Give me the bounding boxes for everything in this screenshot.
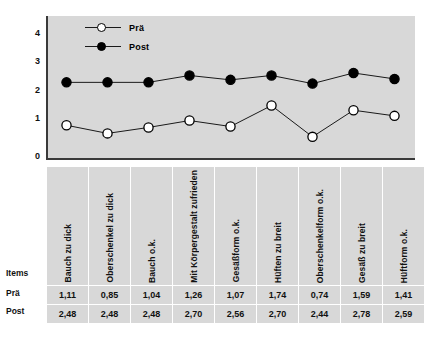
- values-table: Bauch zu dickOberschenkel zu dickBauch o…: [46, 166, 425, 324]
- table-header-cell: Oberschenkel zu dick: [89, 167, 131, 286]
- table-header-cell: Hüften zu breit: [257, 167, 299, 286]
- table-cell-pra: 1,41: [383, 285, 425, 304]
- table-cell-pra: 1,07: [215, 285, 257, 304]
- data-point-prä: [390, 111, 399, 120]
- table-cell-post: 2,48: [89, 304, 131, 323]
- table-header-cell: Gesäßform o.k.: [215, 167, 257, 286]
- table-row-post: 2,482,482,482,702,562,702,442,782,59: [47, 304, 425, 323]
- table-cell-pra: 1,26: [173, 285, 215, 304]
- table-header-label: Oberschenkelform o.k.: [315, 186, 325, 283]
- data-point-post: [144, 78, 153, 87]
- data-table-region: Items Prä Post Bauch zu dickOberschenkel…: [0, 166, 431, 338]
- data-point-post: [390, 74, 399, 83]
- table-header-label: Bauch o.k.: [147, 236, 157, 283]
- data-point-post: [349, 68, 358, 77]
- chart-figure: 4 3 2 1 0 Prä Post: [0, 0, 431, 338]
- table-header-cell: Bauch zu dick: [47, 167, 89, 286]
- data-point-prä: [349, 106, 358, 115]
- table-cell-post: 2,48: [47, 304, 89, 323]
- legend-label-pra: Prä: [129, 23, 144, 33]
- table-row-pra: 1,110,851,041,261,071,740,741,591,41: [47, 285, 425, 304]
- table-header-cell: Mit Körpergestalt zufrieden: [173, 167, 215, 286]
- data-point-post: [226, 75, 235, 84]
- data-point-prä: [144, 123, 153, 132]
- table-cell-post: 2,48: [131, 304, 173, 323]
- table-header-cell: Hüftform o.k.: [383, 167, 425, 286]
- row-label-items: Items: [6, 268, 28, 278]
- data-point-post: [103, 78, 112, 87]
- data-point-post: [62, 78, 71, 87]
- table-cell-post: 2,70: [257, 304, 299, 323]
- svg-series-group: [62, 68, 399, 141]
- table-cell-post: 2,56: [215, 304, 257, 323]
- table-header-label: Hüften zu breit: [273, 219, 283, 283]
- table-cell-post: 2,59: [383, 304, 425, 323]
- data-point-post: [267, 71, 276, 80]
- table-cell-pra: 0,85: [89, 285, 131, 304]
- table-header-label: Oberschenkel zu dick: [105, 190, 115, 282]
- data-point-prä: [308, 132, 317, 141]
- table-cell-pra: 1,04: [131, 285, 173, 304]
- table-header-label: Bauch zu dick: [63, 221, 73, 282]
- legend-marker-filled-circle-icon: [85, 41, 121, 53]
- chart-plot-region: 4 3 2 1 0 Prä Post: [0, 0, 431, 166]
- series-lines-and-markers: [0, 0, 431, 166]
- table-cell-post: 2,70: [173, 304, 215, 323]
- table-header-cell: Bauch o.k.: [131, 167, 173, 286]
- table-cell-pra: 0,74: [299, 285, 341, 304]
- legend: Prä Post: [85, 20, 205, 58]
- table-cell-pra: 1,74: [257, 285, 299, 304]
- legend-entry-pra: Prä: [85, 20, 205, 36]
- table-header-cell: Oberschenkelform o.k.: [299, 167, 341, 286]
- table-cell-post: 2,78: [341, 304, 383, 323]
- row-label-pra: Prä: [6, 288, 20, 298]
- table-header-label: Gesäßform o.k.: [231, 216, 241, 282]
- row-label-post: Post: [6, 306, 24, 316]
- data-point-post: [308, 79, 317, 88]
- data-point-prä: [226, 122, 235, 131]
- table-cell-pra: 1,11: [47, 285, 89, 304]
- series-line-prä: [67, 106, 395, 137]
- data-point-post: [185, 71, 194, 80]
- table-cell-pra: 1,59: [341, 285, 383, 304]
- table-header-label: Hüftform o.k.: [399, 226, 409, 283]
- data-point-prä: [185, 116, 194, 125]
- table-header-cell: Gesäß zu breit: [341, 167, 383, 286]
- legend-marker-open-circle-icon: [85, 22, 121, 34]
- table-header-label: Gesäß zu breit: [357, 220, 367, 283]
- data-point-prä: [103, 129, 112, 138]
- legend-entry-post: Post: [85, 39, 205, 55]
- data-point-prä: [62, 121, 71, 130]
- table-header-label: Mit Körpergestalt zufrieden: [189, 167, 199, 283]
- legend-label-post: Post: [129, 42, 149, 52]
- table-cell-post: 2,44: [299, 304, 341, 323]
- data-point-prä: [267, 101, 276, 110]
- table-row-headers: Bauch zu dickOberschenkel zu dickBauch o…: [47, 167, 425, 286]
